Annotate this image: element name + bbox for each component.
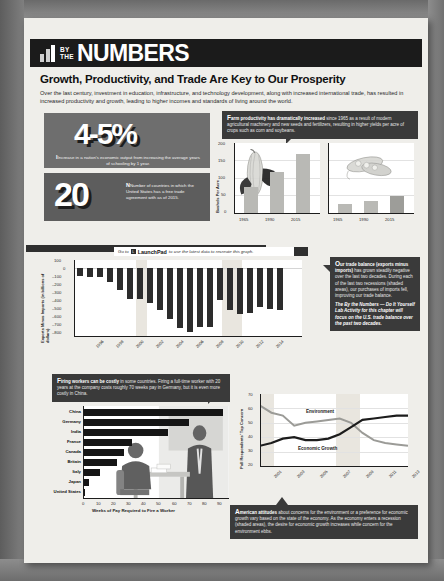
trade-x-axis	[74, 336, 302, 337]
concern-xtick-2001: 2001	[273, 469, 283, 479]
firing-bar-france	[83, 439, 132, 446]
corn-ytick-50: 50	[221, 192, 226, 197]
page-subtitle: Over the last century, investment in edu…	[40, 89, 408, 106]
concern-xtick-2005: 2005	[319, 469, 329, 479]
stat-caption-trade-agreements: NNumber of countries in which the United…	[126, 182, 202, 201]
firing-xtick-90: 90	[217, 501, 222, 506]
corn-x-axis	[234, 213, 320, 214]
trade-ytick--400: –400	[52, 298, 61, 303]
concern-ytick-20: 20	[248, 462, 253, 467]
trade-bar-2014	[267, 268, 273, 309]
trade-bar-1995	[77, 268, 83, 276]
header-eyebrow-by: BY	[60, 46, 74, 54]
concern-ylabel: Poll Respondents' Top Concern	[239, 409, 244, 469]
corn-bar-2015	[296, 154, 310, 213]
trade-ytick--700: –700	[52, 322, 61, 327]
trade-bar-2010	[227, 268, 233, 310]
firing-bar-canada	[83, 449, 124, 456]
launchpad-suffix: to use the latest data to recreate this …	[169, 249, 254, 254]
header-eyebrow-the: THE	[60, 53, 74, 61]
stat-caption2-text: Number of countries in which the United …	[126, 183, 194, 200]
soybean-plot-area	[328, 143, 414, 213]
corn-xtick-2015: 2015	[291, 217, 300, 222]
soy-xtick-1965: 1965	[333, 217, 342, 222]
trade-xtick-1996: 1996	[95, 339, 105, 349]
stat-caption-text: Increase in a nation's economic output f…	[58, 155, 200, 166]
trade-plot-area	[74, 260, 302, 336]
chart-trade-balance: Exports Minus Imports (in billions of do…	[34, 257, 326, 353]
firing-y-axis	[83, 406, 84, 498]
series-label-economic-growth: Economic Growth	[298, 446, 337, 451]
launchpad-brand[interactable]: LaunchPad	[138, 249, 167, 255]
launchpad-icon: L	[131, 249, 136, 254]
trade-y-axis	[74, 260, 75, 336]
firing-xtick-60: 60	[172, 501, 177, 506]
firing-xtick-40: 40	[141, 501, 146, 506]
trade-ytick--300: –300	[52, 290, 61, 295]
corn-xtick-1990: 1990	[265, 217, 274, 222]
concern-xtick-2009: 2009	[365, 469, 375, 479]
firing-cat-china: China	[34, 409, 81, 414]
concern-ytick-70: 70	[248, 392, 253, 397]
corn-bar-1965	[244, 187, 258, 213]
soy-y-axis	[328, 143, 329, 213]
firing-xtick-0: 0	[82, 501, 84, 506]
trade-xtick-1998: 1998	[115, 339, 125, 349]
concern-ytick-30: 30	[248, 448, 253, 453]
soy-x-axis	[328, 213, 414, 214]
firing-plot-area	[83, 406, 229, 498]
trade-xtick-2012: 2012	[255, 339, 265, 349]
callout-farm-bold: arm productivity has dramatically increa…	[231, 116, 325, 121]
corn-ytick-0: 0	[224, 209, 226, 214]
trade-bar-2007	[197, 268, 203, 327]
stat-caption-schooling: IIncrease in a nation's economic output …	[56, 154, 200, 167]
callout-attitudes-tail	[276, 497, 288, 505]
firing-xtick-80: 80	[202, 501, 207, 506]
trade-ytick--100: –100	[52, 274, 61, 279]
trade-ytick-100: 100	[54, 258, 61, 263]
corn-bar-1990	[270, 172, 284, 213]
trade-bar-2000	[127, 268, 133, 299]
firing-cat-britain: Britain	[34, 459, 81, 464]
concern-plot-area: Environment Economic Growth	[260, 394, 408, 466]
concern-ytick-50: 50	[248, 420, 253, 425]
concern-xtick-2007: 2007	[342, 469, 352, 479]
concern-x-axis	[260, 466, 408, 467]
concern-xtick-2003: 2003	[296, 469, 306, 479]
by-the-numbers-header: BY THE NUMBERS	[30, 39, 422, 67]
page-title: Growth, Productivity, and Trade Are Key …	[40, 73, 410, 85]
concern-ytick-60: 60	[248, 406, 253, 411]
launchpad-shadow-right	[294, 247, 308, 256]
soy-bar-2015	[390, 196, 404, 213]
infographic-page: BY THE NUMBERS Growth, Productivity, and…	[0, 0, 444, 581]
stat-panel-trade-agreements: 20 NNumber of countries in which the Uni…	[44, 173, 210, 221]
trade-ytick--200: –200	[52, 282, 61, 287]
callout-trade-tail	[323, 265, 330, 272]
firing-cat-france: France	[34, 439, 81, 444]
trade-ytick--500: –500	[52, 306, 61, 311]
trade-bar-2001	[137, 268, 143, 299]
trade-ytick-0: 0	[63, 266, 65, 271]
firing-xtick-30: 30	[126, 501, 131, 506]
firing-cat-united-states: United States	[34, 489, 81, 494]
firing-cat-canada: Canada	[34, 449, 81, 454]
firing-cat-italy: Italy	[34, 469, 81, 474]
trade-balance-ylabel: Exports Minus Imports (in billions of do…	[40, 259, 50, 343]
launchpad-prefix: Go to	[118, 249, 129, 254]
bar-chart-icon	[40, 45, 55, 62]
trade-xtick-2008: 2008	[215, 339, 225, 349]
trade-xtick-2014: 2014	[275, 339, 285, 349]
firing-bar-germany	[83, 419, 189, 426]
firing-bar-china	[83, 409, 223, 416]
firing-bar-italy	[83, 469, 100, 476]
trade-bar-1998	[107, 268, 113, 282]
corn-y-axis	[234, 143, 235, 213]
trade-bar-1997	[97, 268, 103, 277]
concern-xtick-2013: 2013	[411, 469, 421, 479]
launchpad-callout[interactable]: Go to L LaunchPad to use the latest data…	[114, 247, 294, 256]
callout-farm-productivity: Farm productivity has dramatically incre…	[222, 111, 418, 139]
concern-y-axis	[260, 394, 261, 466]
trade-xtick-2000: 2000	[135, 339, 145, 349]
trade-bar-2004	[167, 268, 173, 319]
firing-xtick-50: 50	[156, 501, 161, 506]
